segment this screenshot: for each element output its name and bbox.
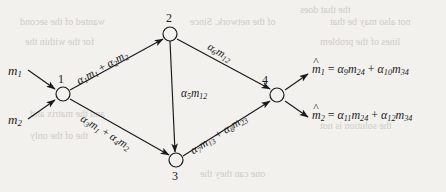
coef-alpha-10-sub: 10 xyxy=(384,68,392,77)
node-2[interactable] xyxy=(163,27,177,41)
plus-sign: + xyxy=(368,62,375,76)
node-label-2: 2 xyxy=(166,12,172,24)
input-arrow-m1 xyxy=(28,70,55,89)
input-m1-sub: 1 xyxy=(17,69,21,79)
var-m-24b: m xyxy=(351,108,360,122)
output-equation-m-hat-2: m2 = α11m24 + α12m34 xyxy=(312,109,412,123)
m-hat-2-base: m xyxy=(312,109,321,121)
node-label-1: 1 xyxy=(58,73,64,85)
var-m-12-sub: 12 xyxy=(199,92,207,101)
input-m2-sub: 2 xyxy=(17,118,21,128)
edge-line-2-3 xyxy=(170,41,175,152)
node-label-3: 3 xyxy=(172,170,178,182)
input-label-m2: m2 xyxy=(8,113,22,128)
input-arrow-m2 xyxy=(28,100,55,119)
edge-label-2-3: α5m12 xyxy=(181,88,207,101)
var-m-34b: m xyxy=(395,108,404,122)
var-m-34-sub: 34 xyxy=(401,68,409,77)
var-m-34b-sub: 34 xyxy=(404,114,412,123)
input-m2-base: m xyxy=(8,112,17,127)
plus-sign: + xyxy=(371,108,378,122)
var-m-24b-sub: 24 xyxy=(360,114,368,123)
network-coding-diagram: the that does wanted of the second of th… xyxy=(0,0,446,192)
input-label-m1: m1 xyxy=(8,64,22,79)
input-m1-base: m xyxy=(8,63,17,78)
output-arrow-m-hat-1 xyxy=(285,74,308,90)
node-4[interactable] xyxy=(270,88,284,102)
var-m-24-sub: 24 xyxy=(357,68,365,77)
equals-sign: = xyxy=(328,62,335,76)
var-m-34: m xyxy=(392,62,401,76)
node-label-4: 4 xyxy=(262,74,268,86)
var-m-24: m xyxy=(348,62,357,76)
equals-sign: = xyxy=(328,108,335,122)
output-equation-m-hat-1: m1 = α9m24 + α10m34 xyxy=(312,63,409,77)
node-3[interactable] xyxy=(169,153,183,167)
node-1[interactable] xyxy=(56,87,70,101)
m-hat-1-base: m xyxy=(312,63,321,75)
output-arrow-m-hat-2 xyxy=(285,101,308,117)
diagram-canvas xyxy=(0,0,446,192)
